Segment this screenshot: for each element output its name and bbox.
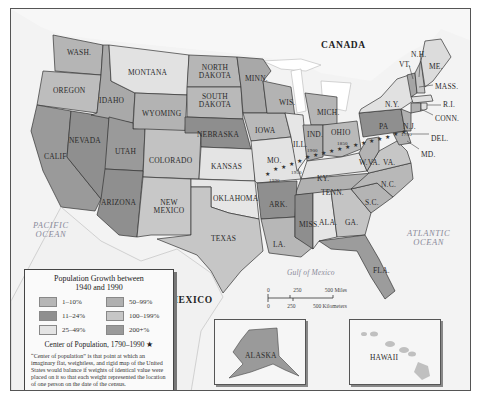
swatch-25-49 (39, 325, 57, 335)
year-1990: 1990 (269, 177, 280, 185)
state-conn (411, 103, 421, 113)
svg-text:★: ★ (369, 138, 374, 144)
svg-text:★: ★ (377, 136, 382, 142)
state-label-mass: MASS. (435, 83, 458, 91)
state-label-nebraska: NEBRASKA (197, 131, 239, 139)
svg-text:★: ★ (393, 131, 398, 137)
state-label-nc: N.C. (381, 181, 396, 189)
state-label-ind: IND. (307, 131, 323, 139)
svg-text:★: ★ (321, 150, 326, 156)
alaska-inset: ALASKA (214, 319, 306, 385)
label-alaska: ALASKA (245, 352, 277, 360)
svg-text:★: ★ (289, 161, 294, 167)
state-label-nevada: NEVADA (69, 137, 101, 145)
state-label-arizona: ARIZONA (101, 199, 136, 207)
state-colorado (143, 129, 201, 179)
state-label-calif: CALIF (44, 153, 67, 161)
svg-text:★: ★ (353, 142, 358, 148)
state-label-oregon: OREGON (53, 87, 85, 95)
state-ri (421, 103, 427, 111)
state-label-del: DEL. (431, 135, 448, 143)
state-label-wyoming: WYOMING (142, 110, 181, 118)
svg-text:★: ★ (361, 140, 366, 146)
state-label-fla: FLA. (373, 267, 390, 275)
legend-item: 1–10% (39, 297, 106, 307)
map-frame: ★ ★ ★ ★ ★ ★ ★ ★ ★ ★ ★ ★ ★ ★ ★ ★ ★ ★ (10, 8, 471, 391)
swatch-11-24 (39, 311, 57, 321)
legend-item: 50–99% (106, 297, 173, 307)
legend-title: Population Growth between 1940 and 1990 (25, 274, 173, 292)
hawaii-shape (350, 320, 440, 384)
state-label-ohio: OHIO (331, 129, 351, 137)
scale-miles: 0 250 500 Miles (267, 287, 347, 293)
swatch-200-plus (106, 325, 124, 335)
state-label-south-dakota: SOUTH DAKOTA (193, 93, 237, 109)
state-label-va: VA. (383, 159, 395, 167)
state-label-ark: ARK. (269, 201, 288, 209)
swatch-1-10 (39, 297, 57, 307)
legend-item: 100–199% (106, 311, 173, 321)
state-label-nh: N.H. (411, 51, 426, 59)
swatch-50-99 (106, 297, 124, 307)
year-1900: 1900 (307, 147, 318, 155)
year-1790: 1790 (401, 131, 412, 139)
legend-item: 25–49% (39, 325, 106, 335)
label-hawaii: HAWAII (370, 354, 398, 362)
legend-items: 1–10% 50–99% 11–24% 100–199% 25–49% 200+… (39, 297, 173, 335)
state-label-nj: N.J. (403, 123, 416, 131)
hawaii-inset: HAWAII (349, 319, 441, 385)
year-1850: 1850 (337, 140, 348, 148)
state-label-ri: R.I. (443, 101, 455, 109)
state-label-north-dakota: NORTH DAKOTA (193, 64, 237, 80)
state-label-minn: MINN. (245, 75, 268, 83)
state-label-kansas: KANSAS (211, 163, 242, 171)
state-label-conn: CONN. (435, 115, 459, 123)
state-label-ny: N.Y. (385, 101, 399, 109)
state-label-sc: S.C. (365, 199, 379, 207)
state-label-md: MD. (421, 151, 436, 159)
legend-note: “Center of population” is that point at … (31, 353, 167, 388)
state-label-tenn: TENN. (321, 189, 344, 197)
svg-text:★: ★ (385, 134, 390, 140)
legend-box: Population Growth between 1940 and 1990 … (24, 269, 174, 391)
state-label-miss: MISS. (299, 221, 319, 229)
state-label-idaho: IDAHO (99, 97, 124, 105)
state-label-oklahoma: OKLAHOMA (213, 195, 258, 203)
state-label-ga: GA. (345, 219, 358, 227)
label-pacific-ocean: PACIFIC OCEAN (33, 221, 69, 239)
state-label-vt: VT. (399, 61, 411, 69)
state-label-mo: MO. (267, 157, 282, 165)
label-canada: CANADA (321, 41, 366, 49)
scale-bar (268, 294, 333, 302)
state-label-pa: PA (379, 123, 388, 131)
state-label-ill: ILL. (293, 141, 307, 149)
scale-kilometers: 0 250 500 Kilometers (267, 303, 347, 309)
state-label-wva: W.VA. (359, 159, 380, 167)
state-label-iowa: IOWA (255, 127, 275, 135)
legend-center-of-population: Center of Population, 1790–1990 ★ (25, 340, 173, 349)
label-atlantic-ocean: ATLANTIC OCEAN (407, 229, 450, 247)
legend-item: 11–24% (39, 311, 106, 321)
state-label-ky: KY. (317, 175, 329, 183)
state-label-mich: MICH. (317, 109, 339, 117)
label-gulf-of-mexico: Gulf of Mexico (287, 269, 335, 277)
svg-text:★: ★ (329, 148, 334, 154)
state-label-la: LA. (273, 241, 285, 249)
state-label-me: ME. (429, 63, 443, 71)
state-label-wash: WASH. (67, 49, 91, 57)
state-label-new-mexico: NEW MEXICO (149, 199, 189, 215)
state-label-montana: MONTANA (128, 69, 167, 77)
year-1950: 1950 (291, 169, 302, 177)
label-mexico: MEXICO (169, 296, 213, 304)
state-label-texas: TEXAS (211, 235, 236, 243)
state-label-utah: UTAH (115, 148, 136, 156)
legend-item: 200+% (106, 325, 173, 335)
svg-text:★: ★ (281, 164, 286, 170)
svg-text:★: ★ (297, 158, 302, 164)
state-label-ala: ALA. (319, 219, 337, 227)
state-label-colorado: COLORADO (149, 157, 192, 165)
state-mass (411, 95, 433, 103)
swatch-100-199 (106, 311, 124, 321)
svg-text:★: ★ (273, 166, 278, 172)
state-label-wis: WIS. (279, 99, 295, 107)
